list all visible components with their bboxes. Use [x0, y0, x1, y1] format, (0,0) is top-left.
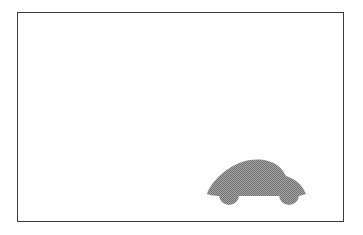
- car-icon: [204, 154, 310, 209]
